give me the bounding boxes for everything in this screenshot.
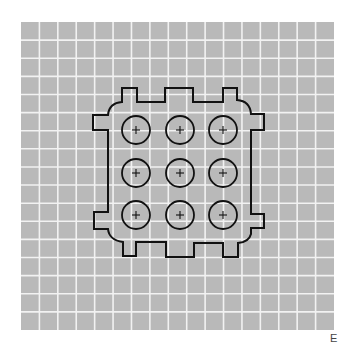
grid-background — [21, 22, 334, 330]
figure-panel: E — [0, 0, 357, 356]
diagram-canvas — [0, 0, 357, 356]
panel-label: E — [330, 333, 337, 344]
